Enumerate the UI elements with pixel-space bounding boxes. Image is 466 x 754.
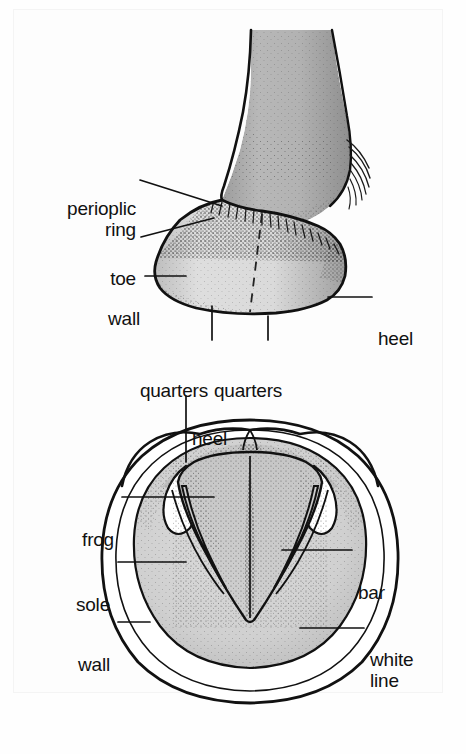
label-white-line-text: white line [370,649,462,691]
leader-perioplic-ring [140,180,222,206]
label-bar-text: bar [358,582,438,603]
label-white-line: white line [370,607,462,733]
label-wall-solar-text: wall [18,654,110,675]
label-frog-text: frog [22,529,114,550]
hoof-anatomy-figure: perioplic ring toe wall quarters quarter… [0,0,466,754]
label-wall-text: wall [28,308,140,329]
lateral-view-drawing [140,28,372,340]
label-heel-lateral-text: heel [378,328,458,349]
label-heel-solar-text: heel [192,428,272,449]
label-heel-solar: heel [192,386,272,491]
label-wall-solar: wall [18,612,110,717]
label-heel-lateral: heel [378,286,458,391]
